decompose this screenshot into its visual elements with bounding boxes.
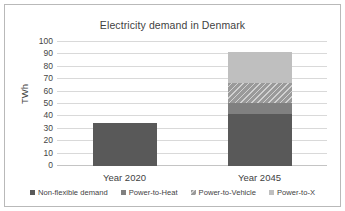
y-axis-tick-label: 50 <box>44 99 53 108</box>
chart-container: Electricity demand in Denmark TWh 100908… <box>4 4 341 207</box>
legend-item[interactable]: Power-to-Heat <box>121 188 178 197</box>
y-axis-tick-label: 70 <box>44 74 53 83</box>
y-axis-title: TWh <box>19 84 30 104</box>
bar-stack[interactable] <box>228 52 292 166</box>
legend-item[interactable]: Non-flexible demand <box>30 188 108 197</box>
legend-item-label: Non-flexible demand <box>38 188 108 197</box>
bar-group[interactable]: Year 2020 <box>93 42 157 166</box>
legend-swatch-icon <box>269 190 274 195</box>
bar-stack[interactable] <box>93 123 157 166</box>
legend-item-label: Power-to-Vehicle <box>199 188 256 197</box>
legend-swatch-icon <box>191 190 196 195</box>
bar-segment[interactable] <box>93 123 157 166</box>
bar-group[interactable]: Year 2045 <box>228 42 292 166</box>
bar-segment[interactable] <box>228 114 292 166</box>
bar-segment[interactable] <box>228 83 292 103</box>
chart-title: Electricity demand in Denmark <box>5 19 340 31</box>
chart-legend: Non-flexible demandPower-to-HeatPower-to… <box>5 188 340 197</box>
legend-item[interactable]: Power-to-Vehicle <box>191 188 256 197</box>
legend-item[interactable]: Power-to-X <box>269 188 315 197</box>
y-axis-tick-label: 40 <box>44 111 53 120</box>
bar-segment[interactable] <box>228 103 292 114</box>
y-axis-tick-label: 30 <box>44 124 53 133</box>
x-axis-tick-label: Year 2045 <box>238 172 281 183</box>
y-axis-tick-label: 10 <box>44 148 53 157</box>
y-axis-tick-label: 80 <box>44 62 53 71</box>
legend-item-label: Power-to-X <box>277 188 315 197</box>
y-axis-tick-label: 90 <box>44 49 53 58</box>
legend-swatch-icon <box>121 190 126 195</box>
y-axis-tick-label: 0 <box>48 161 53 170</box>
x-axis-tick-label: Year 2020 <box>103 172 146 183</box>
y-axis-tick-label: 20 <box>44 136 53 145</box>
y-axis-tick-label: 100 <box>39 37 53 46</box>
legend-swatch-icon <box>30 190 35 195</box>
bar-segment[interactable] <box>228 52 292 83</box>
legend-item-label: Power-to-Heat <box>129 188 178 197</box>
plot-area: 1009080706050403020100 Year 2020Year 204… <box>57 42 327 166</box>
y-axis-tick-label: 60 <box>44 86 53 95</box>
